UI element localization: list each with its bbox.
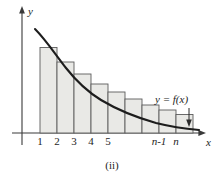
riemann-bar — [40, 48, 57, 134]
y-axis-arrowhead — [19, 6, 25, 14]
curve-equation-label: y = f(x) — [155, 94, 188, 105]
figure-container: y x 1 2 3 4 5 n-1 n y = f(x) (ii) — [0, 0, 224, 182]
x-tick-label-n: n — [166, 136, 186, 147]
riemann-bar — [91, 84, 108, 133]
riemann-bar — [176, 115, 193, 134]
riemann-sum-figure: y x — [0, 0, 224, 182]
figure-caption: (ii) — [0, 160, 224, 171]
riemann-bar — [74, 74, 91, 133]
x-axis-arrowhead — [198, 130, 206, 136]
riemann-bar — [108, 92, 125, 133]
y-axis — [19, 6, 25, 145]
riemann-bar — [159, 110, 176, 133]
riemann-bar — [57, 62, 74, 133]
riemann-rectangles — [40, 48, 193, 134]
y-axis-label: y — [27, 5, 33, 17]
x-tick-label-5: 5 — [98, 136, 118, 147]
x-axis-label: x — [205, 136, 211, 148]
